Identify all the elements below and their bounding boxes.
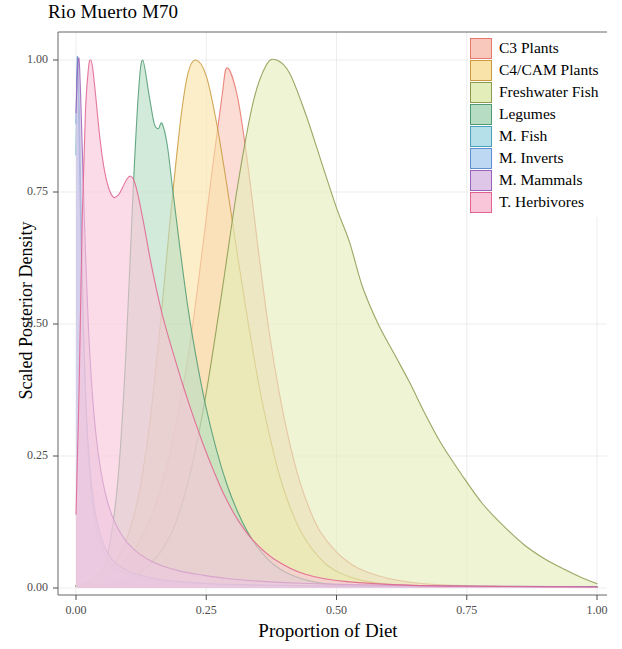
legend-item[interactable]: T. Herbivores (470, 191, 618, 213)
legend-swatch-icon (470, 148, 492, 169)
legend-item-label: M. Mammals (499, 172, 583, 188)
legend-item[interactable]: C4/CAM Plants (470, 59, 618, 81)
x-tick-label: 0.25 (182, 603, 230, 618)
legend-swatch-icon (470, 38, 492, 59)
legend-item-label: T. Herbivores (499, 194, 584, 210)
y-tick-label: 1.00 (4, 52, 48, 67)
legend-swatch-icon (470, 60, 492, 81)
legend-item-label: Legumes (499, 106, 556, 122)
y-tick-label: 0.75 (4, 184, 48, 199)
legend-item[interactable]: M. Fish (470, 125, 618, 147)
legend-item[interactable]: M. Mammals (470, 169, 618, 191)
y-axis-title: Scaled Posterior Density (16, 181, 37, 441)
x-tick-label: 0.75 (443, 603, 491, 618)
legend-swatch-icon (470, 126, 492, 147)
page-title: Rio Muerto M70 (48, 1, 178, 23)
legend-item-label: M. Inverts (499, 150, 564, 166)
y-tick-label: 0.00 (4, 580, 48, 595)
legend-swatch-icon (470, 170, 492, 191)
density-plot-figure: Rio Muerto M70 Scaled Posterior Density … (0, 0, 622, 649)
x-axis-title: Proportion of Diet (58, 620, 598, 642)
legend-item-label: C4/CAM Plants (499, 62, 598, 78)
legend-item[interactable]: M. Inverts (470, 147, 618, 169)
legend-item-label: Freshwater Fish (499, 84, 598, 100)
legend-swatch-icon (470, 192, 492, 213)
x-tick-label: 1.00 (573, 603, 621, 618)
legend-swatch-icon (470, 82, 492, 103)
legend-item[interactable]: Legumes (470, 103, 618, 125)
legend: C3 PlantsC4/CAM PlantsFreshwater FishLeg… (468, 33, 620, 217)
legend-item[interactable]: C3 Plants (470, 37, 618, 59)
y-tick-label: 0.50 (4, 316, 48, 331)
legend-item-label: C3 Plants (499, 40, 559, 56)
x-tick-label: 0.00 (52, 603, 100, 618)
x-tick-label: 0.50 (313, 603, 361, 618)
legend-swatch-icon (470, 104, 492, 125)
legend-item-label: M. Fish (499, 128, 547, 144)
y-tick-label: 0.25 (4, 448, 48, 463)
legend-item[interactable]: Freshwater Fish (470, 81, 618, 103)
